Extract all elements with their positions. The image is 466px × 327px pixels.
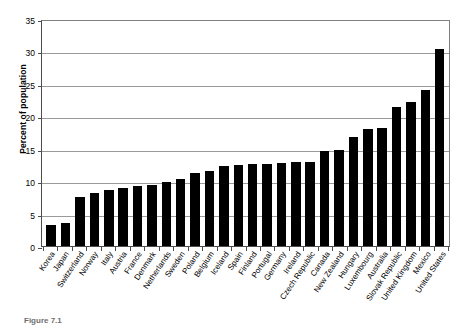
bar-slot [188,21,202,246]
bar [234,165,243,246]
plot-area: 05101520253035 [41,20,450,247]
bar-slot [361,21,375,246]
y-axis-tick-label: 25 [26,82,35,91]
bar [291,162,300,246]
figure-caption: Figure 7.1 [24,316,62,326]
bar-slot [231,21,245,246]
bar-slot [145,21,159,246]
bar-slot [130,21,144,246]
bar [248,164,257,246]
bar [147,185,156,246]
bar [305,162,314,246]
bar [334,150,343,246]
bar-slot [289,21,303,246]
bar-slot [73,21,87,246]
bar-slot [159,21,173,246]
bar [176,179,185,246]
bar [262,164,271,246]
bar [219,166,228,246]
bar [104,190,113,246]
bar [349,137,358,246]
bar-slot [44,21,58,246]
bar [75,197,84,246]
y-axis-tick-label: 15 [26,147,35,156]
bar-slot [260,21,274,246]
bar [61,223,70,246]
bar [277,163,286,246]
bar-slot [404,21,418,246]
y-axis-tick-label: 20 [26,114,35,123]
bar-slot [87,21,101,246]
bar-slot [332,21,346,246]
x-axis-labels: KoreaJapanSwitzerlandNorwayItalyAustriaF… [41,248,450,320]
bar-slot [202,21,216,246]
bar [392,107,401,246]
bar [90,193,99,246]
bar-slot [418,21,432,246]
bar-slot [433,21,447,246]
y-axis-tick-label: 30 [26,49,35,58]
bar-series [42,21,449,246]
bar [46,225,55,246]
bar-slot [274,21,288,246]
bar-slot [346,21,360,246]
y-axis-tick-label: 35 [26,17,35,26]
bar [190,173,199,246]
y-axis-tick-label: 5 [30,212,35,221]
bar [377,128,386,246]
bar-slot [217,21,231,246]
bar-slot [102,21,116,246]
bar [421,90,430,246]
bar-slot [303,21,317,246]
bar-slot [58,21,72,246]
bar [118,188,127,246]
bar [363,129,372,246]
bar-slot [174,21,188,246]
bar [162,182,171,246]
bar [435,49,444,246]
bar-slot [116,21,130,246]
bar-slot [245,21,259,246]
bar [133,186,142,246]
bar-chart: Percent of population 05101520253035 Kor… [0,0,466,327]
bar [205,171,214,246]
bar [320,151,329,246]
bar-slot [389,21,403,246]
bar-slot [375,21,389,246]
bar [406,102,415,246]
y-axis-tick-label: 10 [26,179,35,188]
y-axis-tick-label: 0 [30,244,35,253]
bar-slot [317,21,331,246]
